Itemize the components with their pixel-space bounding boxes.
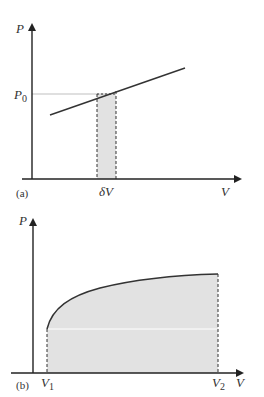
panel-label-b: (b) (16, 379, 29, 392)
delta-v-label: δV (99, 184, 115, 199)
v2-label: V2 (212, 375, 225, 392)
delta-v-strip (97, 94, 116, 179)
x-axis-label-b: V (236, 375, 246, 390)
p0-label: P0 (13, 87, 27, 104)
y-axis-label-a: P (15, 21, 24, 36)
diagram-b: P (b) V1 V2 V (11, 213, 246, 392)
pv-diagrams: P P0 (a) δV V P (b) V1 V2 V (0, 0, 264, 397)
x-axis-label-a: V (221, 184, 231, 199)
work-area (47, 274, 218, 373)
diagram-a: P P0 (a) δV V (13, 21, 238, 200)
y-axis-label-b: P (18, 213, 27, 228)
v1-label: V1 (41, 375, 54, 392)
panel-label-a: (a) (16, 187, 29, 200)
pv-line (50, 68, 185, 115)
